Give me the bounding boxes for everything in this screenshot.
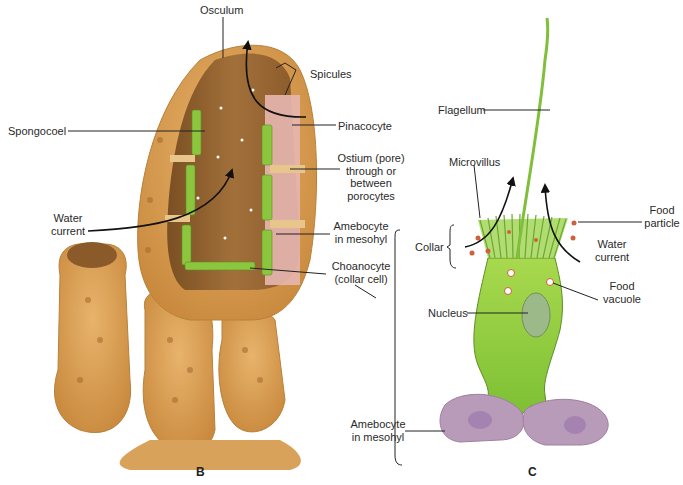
choanocyte-illustration <box>440 18 608 445</box>
label-ostium-line1: Ostium (pore) <box>336 152 406 165</box>
label-water-current-b-line2: current <box>48 225 88 238</box>
label-choanocyte: Choanocyte (collar cell) <box>326 260 396 285</box>
label-amebocyte-b-line2: in mesohyl <box>330 233 392 246</box>
label-food-particle-line2: particle <box>642 217 682 230</box>
panel-letter-c: C <box>528 465 537 479</box>
label-spicules: Spicules <box>310 68 352 81</box>
label-osculum: Osculum <box>200 4 243 17</box>
label-water-current-c-line1: Water <box>590 238 634 251</box>
label-spongocoel: Spongocoel <box>8 125 66 138</box>
label-collar: Collar <box>415 241 444 254</box>
label-water-current-c: Water current <box>590 238 634 263</box>
label-ostium-line2: through or <box>336 165 406 178</box>
label-flagellum: Flagellum <box>438 104 486 117</box>
label-choanocyte-line1: Choanocyte <box>326 260 396 273</box>
label-amebocyte-c: Amebocyte in mesohyl <box>350 418 406 443</box>
label-food-vacuole-line2: vacuole <box>600 293 644 306</box>
label-food-vacuole-line1: Food <box>600 280 644 293</box>
sponge-illustration <box>54 45 316 470</box>
label-water-current-b-line1: Water <box>48 212 88 225</box>
label-amebocyte-c-line1: Amebocyte <box>350 418 406 431</box>
label-choanocyte-line2: (collar cell) <box>326 273 396 286</box>
label-food-particle: Food particle <box>642 204 682 229</box>
label-ostium: Ostium (pore) through or between porocyt… <box>336 152 406 202</box>
label-water-current-b: Water current <box>48 212 88 237</box>
label-pinacocyte: Pinacocyte <box>338 120 392 133</box>
label-ostium-line3: between <box>336 177 406 190</box>
label-amebocyte-b: Amebocyte in mesohyl <box>330 220 392 245</box>
panel-letter-b: B <box>196 465 205 479</box>
label-amebocyte-c-line2: in mesohyl <box>350 431 406 444</box>
label-microvillus: Microvillus <box>449 156 500 169</box>
label-ostium-line4: porocytes <box>336 190 406 203</box>
label-food-particle-line1: Food <box>642 204 682 217</box>
label-food-vacuole: Food vacuole <box>600 280 644 305</box>
label-water-current-c-line2: current <box>590 251 634 264</box>
label-amebocyte-b-line1: Amebocyte <box>330 220 392 233</box>
label-nucleus: Nucleus <box>428 307 468 320</box>
